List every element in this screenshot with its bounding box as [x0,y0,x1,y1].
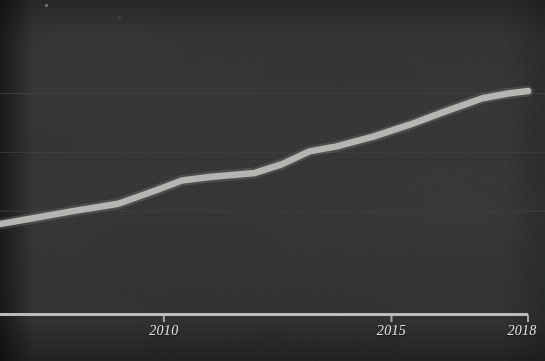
x-axis [0,315,528,323]
x-tick-label-2015: 2015 [377,323,406,339]
chart-screenshot: 2010 2015 2018 [0,0,545,361]
series-line [0,91,528,224]
gridlines [0,94,545,212]
x-tick-label-2018: 2018 [507,323,536,339]
data-series-group [0,91,528,224]
line-chart [0,0,545,361]
x-tick-label-2010: 2010 [149,323,178,339]
